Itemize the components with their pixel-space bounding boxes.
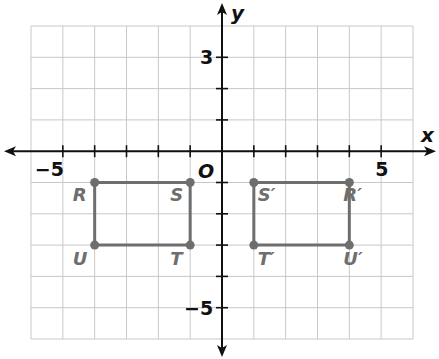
vertex-point bbox=[186, 241, 195, 250]
vertex-point bbox=[186, 178, 195, 187]
vertex-label: R bbox=[73, 184, 87, 205]
vertex-label: S′ bbox=[258, 184, 276, 205]
y-tick-label: 3 bbox=[200, 46, 213, 68]
x-tick-label: 5 bbox=[375, 158, 388, 180]
y-tick-label: −5 bbox=[184, 297, 213, 319]
coordinate-plane: xyO−553−5RSTUR′S′T′U′ bbox=[0, 0, 439, 359]
vertex-label: U′ bbox=[343, 248, 363, 269]
origin-label: O bbox=[198, 160, 214, 182]
x-axis-label: x bbox=[420, 123, 435, 147]
y-axis-label: y bbox=[231, 1, 245, 25]
x-tick-label: −5 bbox=[35, 158, 64, 180]
axes bbox=[4, 3, 436, 357]
vertex-label: S bbox=[170, 184, 183, 205]
vertex-label: T′ bbox=[258, 248, 275, 269]
vertex-label: R′ bbox=[343, 184, 362, 205]
vertex-point bbox=[90, 178, 99, 187]
vertex-point bbox=[90, 241, 99, 250]
vertex-label: U bbox=[73, 248, 88, 269]
vertex-label: T bbox=[170, 248, 184, 269]
